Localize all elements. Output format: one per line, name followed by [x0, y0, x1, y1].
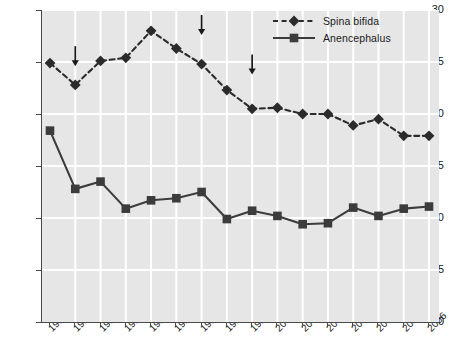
- x-tick-mark: [276, 322, 277, 327]
- y-tick-mark: [36, 270, 41, 271]
- x-tick-mark: [74, 322, 75, 327]
- data-point-marker: [196, 59, 207, 70]
- data-point-marker: [172, 194, 181, 203]
- data-point-marker: [373, 114, 384, 125]
- data-point-marker: [324, 219, 333, 228]
- x-tick-mark: [49, 322, 50, 327]
- legend-marker-icon: [272, 31, 316, 45]
- data-point-marker: [272, 102, 283, 113]
- data-point-marker: [424, 130, 435, 141]
- data-point-marker: [96, 177, 105, 186]
- x-tick-mark: [226, 322, 227, 327]
- legend-item-1[interactable]: Spina bifida: [272, 12, 391, 29]
- y-tick-mark: [36, 10, 41, 11]
- data-point-marker: [349, 203, 358, 212]
- plot-svg: [42, 10, 439, 322]
- data-point-marker: [348, 120, 359, 131]
- data-point-marker: [46, 126, 55, 135]
- x-tick-mark: [150, 322, 151, 327]
- data-point-marker: [425, 202, 434, 211]
- data-point-marker: [147, 196, 156, 205]
- data-point-marker: [248, 206, 257, 215]
- legend-item-2[interactable]: Anencephalus: [272, 29, 391, 46]
- y-tick-mark: [36, 114, 41, 115]
- data-point-marker: [297, 109, 308, 120]
- plot-area: [41, 10, 439, 323]
- legend-marker-icon: [272, 14, 316, 28]
- series-line-1: [50, 31, 429, 136]
- data-point-marker: [197, 188, 206, 197]
- legend-label: Spina bifida: [323, 15, 379, 27]
- x-tick-mark: [251, 322, 252, 327]
- y-tick-mark: [36, 166, 41, 167]
- y-tick-mark: [36, 62, 41, 63]
- data-point-marker: [273, 212, 282, 221]
- x-tick-mark: [403, 322, 404, 327]
- chart-legend: Spina bifidaAnencephalus: [272, 12, 391, 46]
- data-point-marker: [399, 204, 408, 213]
- annotation-arrow: [249, 54, 256, 74]
- x-tick-mark: [428, 322, 429, 327]
- data-point-marker: [223, 215, 232, 224]
- data-point-marker: [374, 212, 383, 221]
- x-tick-mark: [352, 322, 353, 327]
- y-tick-mark: [36, 218, 41, 219]
- data-point-marker: [122, 204, 131, 213]
- x-tick-mark: [125, 322, 126, 327]
- data-point-marker: [298, 220, 307, 229]
- x-tick-mark: [302, 322, 303, 327]
- x-tick-mark: [100, 322, 101, 327]
- x-tick-mark: [201, 322, 202, 327]
- y-tick-mark: [36, 322, 41, 323]
- x-tick-mark: [175, 322, 176, 327]
- data-point-marker: [71, 185, 80, 194]
- data-point-marker: [323, 109, 334, 120]
- legend-label: Anencephalus: [323, 32, 391, 44]
- x-tick-mark: [377, 322, 378, 327]
- annotation-arrow: [72, 46, 79, 66]
- x-tick-mark: [327, 322, 328, 327]
- data-point-marker: [398, 130, 409, 141]
- series-line-2: [50, 131, 429, 225]
- annotation-arrow: [198, 15, 205, 35]
